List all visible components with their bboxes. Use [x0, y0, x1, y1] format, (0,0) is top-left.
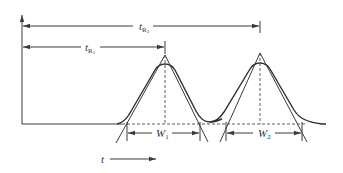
chromatogram-diagram: tR2 tR1 W1 W2 [0, 0, 343, 173]
peak-2 [210, 53, 326, 142]
w2-label: W2 [258, 127, 271, 141]
peak-width-1-dimension: W1 [127, 122, 200, 141]
tr2-label: tR2 [139, 20, 150, 34]
time-direction-indicator: t [101, 153, 156, 165]
retention-time-2-dimension: tR2 [23, 20, 260, 34]
time-label: t [101, 153, 105, 165]
tr1-label: tR1 [85, 41, 96, 55]
retention-time-1-dimension: tR1 [23, 41, 165, 55]
peak-width-2-dimension: W2 [226, 122, 302, 141]
peak-1 [116, 55, 222, 143]
w1-label: W1 [156, 127, 169, 141]
